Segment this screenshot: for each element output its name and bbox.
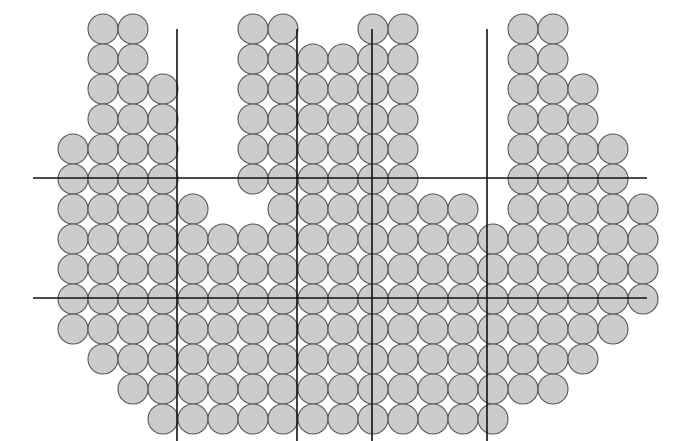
packed-circle	[208, 254, 238, 284]
packed-circle	[508, 44, 538, 74]
packed-circle	[88, 254, 118, 284]
packed-circle	[448, 404, 478, 434]
packed-circle	[238, 254, 268, 284]
packed-circle	[328, 284, 358, 314]
packed-circle	[148, 74, 178, 104]
packed-circle	[268, 284, 298, 314]
packed-circle	[148, 254, 178, 284]
packed-circle	[88, 44, 118, 74]
packed-circle	[148, 284, 178, 314]
packed-circle	[238, 314, 268, 344]
packed-circle	[238, 404, 268, 434]
packed-circle	[88, 164, 118, 194]
packed-circle	[628, 284, 658, 314]
packed-circle	[208, 374, 238, 404]
packed-circle	[298, 284, 328, 314]
packed-circle	[508, 344, 538, 374]
packed-circle	[388, 74, 418, 104]
packed-circle	[418, 344, 448, 374]
packed-circle	[148, 314, 178, 344]
packed-circle	[328, 314, 358, 344]
packed-circle	[118, 194, 148, 224]
packed-circle	[448, 374, 478, 404]
packed-circle	[148, 164, 178, 194]
packed-circle	[538, 374, 568, 404]
packed-circle	[148, 344, 178, 374]
packed-circle	[508, 104, 538, 134]
packed-circle	[328, 74, 358, 104]
packed-circle	[628, 254, 658, 284]
packed-circle	[58, 164, 88, 194]
packed-circle	[268, 74, 298, 104]
packed-circle	[388, 314, 418, 344]
packed-circle	[238, 134, 268, 164]
packed-circle	[268, 164, 298, 194]
packed-circle	[448, 344, 478, 374]
packed-circle	[298, 314, 328, 344]
packed-circle	[328, 194, 358, 224]
packed-circle	[268, 194, 298, 224]
packed-circle	[208, 224, 238, 254]
packed-circle	[238, 44, 268, 74]
packed-circle	[388, 134, 418, 164]
packed-circle	[538, 104, 568, 134]
packed-circle	[538, 74, 568, 104]
packed-circle	[358, 74, 388, 104]
packed-circle	[568, 314, 598, 344]
packed-circle	[238, 284, 268, 314]
packed-circle	[538, 314, 568, 344]
packed-circle	[538, 134, 568, 164]
packed-circle	[298, 344, 328, 374]
packed-circle	[358, 164, 388, 194]
packed-circle	[418, 254, 448, 284]
packed-circle	[268, 14, 298, 44]
packed-circle	[178, 344, 208, 374]
packed-circle	[358, 224, 388, 254]
packed-circle	[148, 374, 178, 404]
packed-circle	[388, 104, 418, 134]
packed-circle	[358, 344, 388, 374]
packed-circle	[88, 284, 118, 314]
packed-circle	[628, 194, 658, 224]
packed-circle	[58, 284, 88, 314]
packed-circle	[568, 164, 598, 194]
packing-canvas	[0, 0, 680, 441]
packed-circle	[598, 314, 628, 344]
packed-circle	[508, 194, 538, 224]
packed-circle	[298, 194, 328, 224]
circles-layer	[58, 14, 658, 434]
packed-circle	[358, 254, 388, 284]
packed-circle	[88, 224, 118, 254]
packed-circle	[268, 374, 298, 404]
packed-circle	[358, 104, 388, 134]
packed-circle	[148, 194, 178, 224]
packed-circle	[538, 344, 568, 374]
packed-circle	[238, 224, 268, 254]
packed-circle	[538, 284, 568, 314]
packed-circle	[178, 374, 208, 404]
packed-circle	[178, 224, 208, 254]
packed-circle	[598, 194, 628, 224]
packed-circle	[538, 224, 568, 254]
packed-circle	[598, 284, 628, 314]
packed-circle	[268, 134, 298, 164]
packing-scene	[0, 0, 680, 441]
packed-circle	[88, 344, 118, 374]
packed-circle	[508, 224, 538, 254]
packed-circle	[118, 164, 148, 194]
packed-circle	[268, 254, 298, 284]
packed-circle	[508, 14, 538, 44]
packed-circle	[598, 224, 628, 254]
packed-circle	[328, 104, 358, 134]
packed-circle	[418, 284, 448, 314]
packed-circle	[238, 344, 268, 374]
packed-circle	[178, 314, 208, 344]
packed-circle	[88, 194, 118, 224]
packed-circle	[268, 224, 298, 254]
packed-circle	[478, 224, 508, 254]
packed-circle	[358, 404, 388, 434]
packed-circle	[298, 224, 328, 254]
packed-circle	[388, 14, 418, 44]
packed-circle	[508, 74, 538, 104]
packed-circle	[448, 314, 478, 344]
